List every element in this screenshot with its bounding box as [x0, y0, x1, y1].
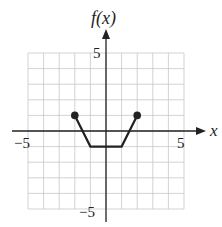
y-axis-label: f(x)	[91, 8, 116, 29]
x-axis	[12, 127, 206, 135]
x-tick-label-neg5: −5	[14, 135, 30, 151]
x-axis-arrow-icon	[196, 127, 206, 135]
x-tick-label-5: 5	[177, 135, 185, 151]
closed-endpoint-dot	[71, 112, 79, 120]
closed-endpoint-dot	[133, 112, 141, 120]
function-graph: f(x) x 5 −5 −5 5	[0, 0, 222, 227]
y-tick-label-neg5: −5	[79, 204, 95, 220]
x-axis-label: x	[209, 121, 218, 140]
y-tick-label-5: 5	[93, 45, 101, 61]
y-axis-arrow-icon	[102, 29, 110, 39]
